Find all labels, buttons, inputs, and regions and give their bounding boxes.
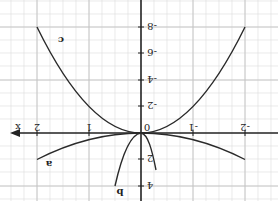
x-tick-neg2: -2: [240, 122, 250, 133]
graph-canvas: x 2 1 0 -1 -2 -8 -6 -4 -2 2 4 c a b: [0, 0, 278, 201]
curve-label-b: b: [117, 187, 124, 198]
x-tick-1: 1: [86, 122, 92, 133]
y-tick-2: 2: [147, 153, 153, 164]
y-tick-neg2: -2: [147, 100, 157, 111]
y-tick-neg4: -4: [147, 74, 157, 85]
grid-major: [0, 0, 278, 201]
parabola-graph: x 2 1 0 -1 -2 -8 -6 -4 -2 2 4 c a b: [0, 0, 278, 201]
x-tick-0: 0: [144, 122, 150, 133]
y-tick-4: 4: [147, 180, 153, 191]
y-tick-neg8: -8: [147, 21, 157, 32]
curve-label-c: c: [58, 35, 64, 46]
y-tick-neg6: -6: [147, 47, 157, 58]
x-tick-2: 2: [34, 122, 40, 133]
grid: [0, 0, 278, 201]
x-axis-label: x: [15, 122, 21, 133]
x-tick-neg1: -1: [188, 122, 198, 133]
curve-labels: c a b: [45, 35, 123, 198]
curve-label-a: a: [45, 159, 52, 170]
